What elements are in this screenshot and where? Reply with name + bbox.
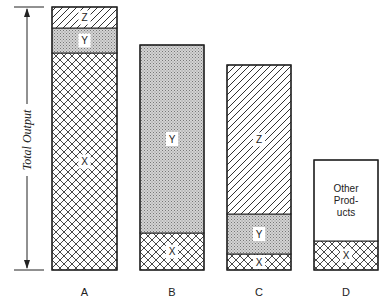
bar-b: XYB [140,45,204,298]
segment-y: Y [52,28,117,53]
category-label: D [342,286,350,298]
segment-label: Prod- [334,195,358,206]
bars-group: XYZAXYBXYZCXOtherProd-uctsD [52,7,378,298]
category-label: A [81,286,89,298]
segment-label: Z [256,134,262,145]
segment-x: X [227,254,291,270]
segment-other-products: OtherProd-ucts [314,160,378,241]
stacked-bar-chart: Total Output XYZAXYBXYZCXOtherProd-uctsD [0,0,387,303]
segment-x: X [314,241,378,270]
segment-y: Y [140,45,204,233]
segment-z: Z [52,7,117,28]
segment-label: Y [256,229,263,240]
segment-label: ucts [337,207,355,218]
segment-label: Other [333,183,359,194]
arrow-up-icon [24,8,30,17]
y-axis-indicator: Total Output [14,7,44,270]
segment-label: X [169,246,176,257]
bar-d: XOtherProd-uctsD [314,160,378,298]
segment-x: X [140,233,204,270]
segment-label: X [256,257,263,268]
arrow-down-icon [24,260,30,269]
segment-x: X [52,53,117,270]
category-label: C [255,286,263,298]
y-axis-label: Total Output [20,109,34,170]
segment-label: X [81,156,88,167]
bar-a: XYZA [52,7,117,298]
segment-label: Z [81,12,87,23]
bar-c: XYZC [227,65,291,298]
segment-y: Y [227,214,291,254]
segment-label: Y [81,35,88,46]
segment-z: Z [227,65,291,214]
segment-label: X [343,250,350,261]
segment-label: Y [169,134,176,145]
category-label: B [168,286,175,298]
